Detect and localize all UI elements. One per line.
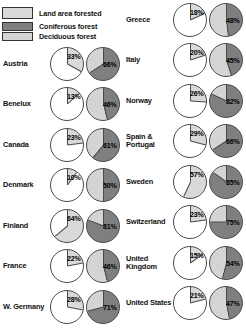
land-area-forested-pie: 21% <box>173 286 207 320</box>
pie-slice-divider <box>190 299 206 304</box>
country-row: Finland64%81% <box>0 208 123 243</box>
legend-item-deciduous: Deciduous forest <box>2 32 96 41</box>
country-label: Sweden <box>126 177 172 185</box>
country-row: Spain & Portugal29%66% <box>123 124 246 159</box>
land-area-forested-pie: 20% <box>173 43 207 77</box>
country-row: Austria33%66% <box>0 46 123 81</box>
coniferous-value: 45% <box>226 57 239 64</box>
forest-composition-pie: 46% <box>86 87 120 121</box>
pie-slice-divider <box>67 263 83 267</box>
country-label: Norway <box>126 96 172 104</box>
country-label: Austria <box>3 59 49 67</box>
pie-slice-divider <box>67 63 82 72</box>
forest-composition-pie: 54% <box>209 246 243 280</box>
legend-item-coniferous: Coniferous forest <box>2 22 97 31</box>
country-row: Benelux13%46% <box>0 87 123 122</box>
country-label: United Kingdom <box>126 254 172 271</box>
deciduous-swatch-icon <box>2 32 33 41</box>
forest-composition-pie: 85% <box>209 165 243 199</box>
land-area-forested-pie: 29% <box>173 124 207 158</box>
coniferous-value: 85% <box>226 179 239 186</box>
country-label: Italy <box>126 56 172 64</box>
country-row: France22%46% <box>0 249 123 284</box>
land-area-forested-value: 21% <box>190 292 203 299</box>
coniferous-value: 66% <box>226 138 239 145</box>
country-row: Norway26%82% <box>123 83 246 118</box>
land-area-forested-pie: 18% <box>173 3 207 37</box>
land-area-forested-pie: 10% <box>50 168 84 202</box>
pie-slice-divider <box>55 225 68 236</box>
country-row: United States21%47% <box>123 286 246 321</box>
forest-composition-pie: 48% <box>209 3 243 37</box>
forest-composition-pie: 75% <box>209 205 243 239</box>
coniferous-swatch-icon <box>2 22 33 31</box>
land-area-forested-pie: 22% <box>50 249 84 283</box>
land-area-forested-value: 15% <box>190 252 203 259</box>
land-area-forested-pie: 23% <box>50 128 84 162</box>
land-area-forested-value: 26% <box>190 90 203 97</box>
coniferous-value: 66% <box>103 61 116 68</box>
land-area-forested-pie: 28% <box>50 290 84 324</box>
country-row: United Kingdom15%54% <box>123 245 246 280</box>
land-area-forested-value: 29% <box>190 130 203 137</box>
legend: Land area forested Coniferous forest Dec… <box>0 0 123 46</box>
land-area-forested-value: 18% <box>190 9 203 16</box>
country-label: W. Germany <box>3 302 49 310</box>
legend-label-deciduous: Deciduous forest <box>39 32 96 41</box>
forest-composition-pie: 61% <box>86 128 120 162</box>
forest-composition-pie: 46% <box>86 249 120 283</box>
land-area-forested-value: 10% <box>67 174 80 181</box>
legend-label-land-area-forested: Land area forested <box>39 9 102 18</box>
land-area-forested-value: 23% <box>190 211 203 218</box>
country-row: Greece18%48% <box>123 2 246 37</box>
pie-slice-divider <box>88 219 103 226</box>
country-label: Benelux <box>3 100 49 108</box>
land-area-forested-pie: 13% <box>50 87 84 121</box>
legend-item-land-area-forested: Land area forested <box>2 7 102 19</box>
country-label: Canada <box>3 140 49 148</box>
coniferous-value: 75% <box>226 219 239 226</box>
forest-composition-pie: 50% <box>86 168 120 202</box>
country-row: Italy20%45% <box>123 43 246 78</box>
pie-slice-divider <box>213 172 227 182</box>
land-area-forested-value: 13% <box>67 93 80 100</box>
forest-composition-pie: 82% <box>209 84 243 118</box>
pie-slice-divider <box>183 181 191 196</box>
country-label: Greece <box>126 15 172 23</box>
forest-composition-pie: 47% <box>209 286 243 320</box>
land-area-forested-value: 57% <box>190 171 203 178</box>
land-area-forested-pie: 26% <box>173 84 207 118</box>
total-forest-swatch-icon <box>2 7 33 19</box>
land-area-forested-value: 22% <box>67 255 80 262</box>
legend-label-coniferous: Coniferous forest <box>39 22 97 31</box>
country-row: Canada23%61% <box>0 127 123 162</box>
coniferous-value: 47% <box>226 300 239 307</box>
pie-slice-divider <box>190 219 206 222</box>
coniferous-value: 81% <box>103 223 116 230</box>
coniferous-value: 46% <box>103 101 116 108</box>
country-row: Switzerland23%75% <box>123 205 246 240</box>
country-label: Finland <box>3 221 49 229</box>
forest-composition-pie: 66% <box>209 124 243 158</box>
forest-composition-pie: 71% <box>86 290 120 324</box>
land-area-forested-pie: 57% <box>173 165 207 199</box>
coniferous-value: 61% <box>103 142 116 149</box>
land-area-forested-value: 28% <box>67 296 80 303</box>
country-row: Denmark10%50% <box>0 168 123 203</box>
land-area-forested-pie: 23% <box>173 205 207 239</box>
pie-slice-divider <box>88 306 104 311</box>
country-label: Denmark <box>3 181 49 189</box>
pie-slice-divider <box>190 100 206 102</box>
country-row: W. Germany28%71% <box>0 289 123 324</box>
land-area-forested-pie: 64% <box>50 209 84 243</box>
coniferous-value: 48% <box>226 17 239 24</box>
coniferous-value: 54% <box>226 260 239 267</box>
forest-composition-pie: 66% <box>86 47 120 81</box>
pie-slice-divider <box>212 93 227 101</box>
pie-slice-divider <box>190 141 206 146</box>
forest-composition-pie: 45% <box>209 43 243 77</box>
country-label: Spain & Portugal <box>126 133 172 150</box>
pie-slice-divider <box>90 63 104 72</box>
pie-slice-divider <box>67 306 83 310</box>
land-area-forested-pie: 15% <box>173 246 207 280</box>
